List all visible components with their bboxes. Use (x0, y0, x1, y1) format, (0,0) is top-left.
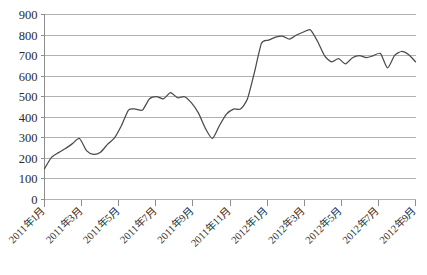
x-tick-label: 2011年5月 (80, 204, 121, 245)
x-axis-ticks-group (45, 200, 416, 206)
x-tick-label: 2012年9月 (377, 204, 418, 245)
y-axis-labels-group: 0100200300400500600700800900 (19, 8, 38, 207)
x-tick-label: 2012年1月 (228, 204, 269, 245)
y-tick-label: 300 (19, 131, 38, 145)
y-tick-label: 900 (19, 8, 38, 22)
y-tick-label: 500 (19, 90, 38, 104)
x-tick-label: 2012年7月 (340, 204, 381, 245)
y-tick-label: 0 (31, 193, 37, 207)
y-tick-label: 200 (19, 152, 38, 166)
y-tick-label: 600 (19, 70, 38, 84)
x-tick-label: 2011年3月 (43, 204, 84, 245)
x-tick-label: 2011年7月 (117, 204, 158, 245)
chart-canvas: 0100200300400500600700800900 2011年1月2011… (0, 0, 427, 275)
x-tick-label: 2012年3月 (265, 204, 306, 245)
y-tick-label: 400 (19, 111, 38, 125)
x-tick-label: 2012年5月 (303, 204, 344, 245)
x-tick-label: 2011年11月 (188, 204, 232, 248)
y-tick-label: 700 (19, 49, 38, 63)
gridlines-group (41, 15, 416, 200)
y-tick-label: 800 (19, 29, 38, 43)
line-chart: 0100200300400500600700800900 2011年1月2011… (0, 0, 427, 275)
x-axis-labels-group: 2011年1月2011年3月2011年5月2011年7月2011年9月2011年… (6, 204, 418, 248)
x-tick-label: 2011年1月 (6, 204, 47, 245)
y-tick-label: 100 (19, 172, 38, 186)
data-series-line (45, 30, 416, 169)
